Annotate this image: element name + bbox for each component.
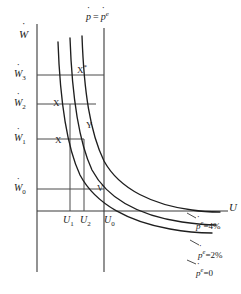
curve-label-4-p: p (196, 221, 201, 231)
x-tick-label-u2: U2 (80, 215, 91, 228)
y-tick-label-w1: W1 (14, 133, 26, 146)
y-tick-w3-sub: 3 (22, 74, 26, 82)
curve-label-4-value: =4% (203, 221, 220, 231)
point-label-x-star: X* (77, 64, 87, 75)
y-tick-w2-sub: 2 (22, 103, 26, 111)
x-tick-u1-sub: 1 (70, 220, 74, 228)
y-tick-w0-base: W (14, 183, 22, 193)
point-label-x-upper: X (53, 99, 60, 108)
long-run-label-pe-sup: e (106, 10, 109, 18)
point-x-star-sup: * (84, 63, 88, 71)
leader-line-pe-4 (187, 213, 196, 218)
x-tick-u2-sub: 2 (87, 220, 91, 228)
point-label-x-lower: X (55, 136, 62, 145)
curve-label-pe-0: pe=0 (196, 267, 213, 278)
y-axis-title-text: W (19, 29, 28, 40)
y-axis-title: W (19, 29, 28, 40)
x-axis-title: U (229, 202, 237, 213)
curve-label-0-value: =0 (203, 268, 213, 278)
y-tick-w1-base: W (14, 133, 22, 143)
y-tick-w0-sub: 0 (22, 188, 26, 196)
y-tick-label-w3: W3 (14, 69, 26, 82)
y-tick-w2-base: W (14, 98, 22, 108)
x-axis-title-text: U (229, 201, 237, 213)
y-tick-w1-sub: 1 (22, 138, 26, 146)
long-run-line-label: p=pe (86, 11, 109, 22)
curve-label-pe-4: pe=4% (196, 220, 220, 231)
curve-label-0-p: p (196, 268, 201, 278)
leader-line-pe-0 (187, 260, 196, 264)
long-run-label-equals: = (93, 11, 99, 22)
y-tick-w3-base: W (14, 69, 22, 79)
long-run-label-p: p (86, 11, 91, 22)
y-tick-label-w0: W0 (14, 183, 26, 196)
x-tick-u0-sub: 0 (111, 220, 115, 228)
leader-line-pe-2 (190, 240, 199, 245)
x-tick-label-u0: U0 (104, 215, 115, 228)
curve-label-2-value: =2% (205, 250, 222, 260)
curve-label-pe-2: pe=2% (198, 249, 222, 260)
point-label-v-lower: V (97, 184, 104, 193)
curve-label-2-p: p (198, 250, 203, 260)
y-tick-label-w2: W2 (14, 98, 26, 111)
point-label-y-upper: Y (86, 121, 93, 130)
x-tick-label-u1: U1 (63, 215, 74, 228)
long-run-label-pe: p (101, 11, 106, 22)
curve-pe-2 (70, 38, 216, 225)
phillips-curve-figure: W U p=pe W3 W2 W1 W0 U1 U2 U0 X* X Y X V… (0, 0, 241, 294)
